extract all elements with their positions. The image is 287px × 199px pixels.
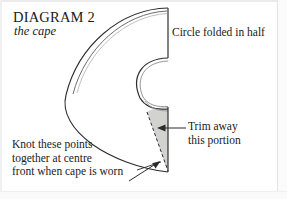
annotation-knot-line2: together at centre — [12, 152, 123, 166]
annotation-trim-away-line2: this portion — [188, 134, 241, 148]
neck-seam-line — [140, 61, 168, 107]
knot-leader-line — [129, 165, 154, 181]
annotation-knot-line1: Knot these points — [12, 138, 123, 152]
annotation-trim-away: Trim away this portion — [188, 120, 241, 147]
diagram-subtitle: the cape — [14, 24, 56, 39]
annotation-trim-away-line1: Trim away — [188, 120, 238, 132]
neck-opening-edge — [137, 58, 168, 109]
annotation-knot-line3: front when cape is worn — [12, 165, 123, 179]
diagram-page: DIAGRAM 2 the cape Circle folded in half… — [0, 0, 287, 199]
annotation-knot-points: Knot these points together at centre fro… — [12, 138, 123, 179]
annotation-circle-folded-in-half: Circle folded in half — [172, 26, 265, 40]
